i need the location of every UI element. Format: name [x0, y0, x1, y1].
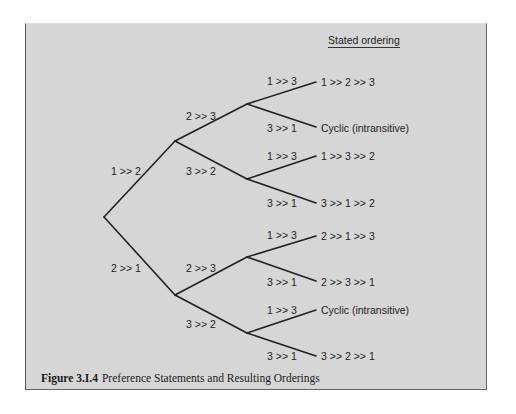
branch-label-l3-1: 1 >> 3: [267, 75, 297, 87]
branch-label-l3-6: 3 >> 1: [267, 276, 297, 288]
branch-label-l3-5: 1 >> 3: [267, 229, 297, 241]
branch-label-2-over-3-a: 2 >> 3: [186, 110, 216, 122]
branch-label-l3-3: 1 >> 3: [267, 150, 297, 162]
branch-label-2-over-1: 2 >> 1: [111, 262, 141, 274]
result-ordering-7: Cyclic (intransitive): [321, 304, 409, 316]
figure-caption: Figure 3.I.4Preference Statements and Re…: [41, 372, 320, 384]
figure-number: Figure 3.I.4: [41, 372, 98, 384]
branch-label-l3-4: 3 >> 1: [267, 197, 297, 209]
branch-label-2-over-3-b: 2 >> 3: [186, 262, 216, 274]
stated-ordering-header: Stated ordering: [328, 34, 400, 48]
edge-root-upper: [104, 141, 175, 217]
figure-caption-text: Preference Statements and Resulting Orde…: [102, 372, 320, 384]
result-ordering-3: 1 >> 3 >> 2: [321, 150, 375, 162]
result-ordering-8: 3 >> 2 >> 1: [321, 350, 375, 362]
decision-tree-lines: [0, 0, 516, 414]
branch-label-l3-7: 1 >> 3: [267, 304, 297, 316]
result-ordering-6: 2 >> 3 >> 1: [321, 276, 375, 288]
branch-label-3-over-2-a: 3 >> 2: [186, 165, 216, 177]
result-ordering-5: 2 >> 1 >> 3: [321, 230, 375, 242]
result-ordering-2: Cyclic (intransitive): [321, 122, 409, 134]
branch-label-1-over-2: 1 >> 2: [111, 165, 141, 177]
branch-label-3-over-2-b: 3 >> 2: [186, 318, 216, 330]
result-ordering-4: 3 >> 1 >> 2: [321, 197, 375, 209]
branch-label-l3-8: 3 >> 1: [267, 350, 297, 362]
edge-root-lower: [104, 217, 175, 295]
result-ordering-1: 1 >> 2 >> 3: [321, 76, 375, 88]
branch-label-l3-2: 3 >> 1: [267, 122, 297, 134]
